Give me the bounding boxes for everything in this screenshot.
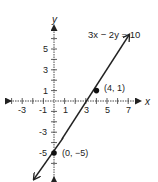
x-tick-label: 5 [105,105,110,115]
y-tick-label: 1 [43,86,48,96]
x-axis [10,98,140,104]
y-tick-label: -3 [39,127,47,137]
point-4-1 [94,88,100,94]
x-tick-label: -3 [18,105,26,115]
x-tick-label: 1 [63,105,68,115]
equation-label: 3x − 2y = 10 [88,29,140,40]
coordinate-plane: y x -3 -1 1 3 5 7 5 3 1 -3 -5 (4, 1) (0,… [0,0,158,182]
point-label-4-1: (4, 1) [104,83,125,93]
point-0-neg5 [51,150,57,156]
x-axis-label: x [144,96,151,107]
x-tick-label: 7 [126,105,131,115]
point-label-0-neg5: (0, −5) [62,148,88,158]
x-tick-label: 3 [84,105,89,115]
x-tick-labels: -3 -1 1 3 5 7 [18,105,131,115]
y-axis-label: y [51,14,58,25]
y-tick-label: -5 [39,148,47,158]
y-tick-label: 5 [43,44,48,54]
x-tick-label: -1 [39,105,47,115]
y-tick-label: 3 [43,65,48,75]
